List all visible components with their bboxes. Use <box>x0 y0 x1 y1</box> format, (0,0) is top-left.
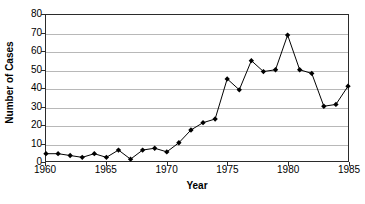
data-point-marker <box>285 32 290 37</box>
y-tick-mark <box>41 107 45 108</box>
data-point-marker <box>345 84 350 89</box>
x-axis-tick-labels: 196019651970197519801985 <box>45 164 349 178</box>
data-point-marker <box>200 120 205 125</box>
data-point-marker <box>273 67 278 72</box>
y-tick-mark <box>41 125 45 126</box>
data-point-marker <box>55 151 60 156</box>
data-point-marker <box>80 155 85 160</box>
y-tick-label: 30 <box>16 102 42 112</box>
y-tick-mark <box>41 51 45 52</box>
y-tick-mark <box>41 33 45 34</box>
y-axis-title-text: Number of Cases <box>4 41 15 123</box>
x-tick-mark <box>167 162 168 166</box>
x-axis-title: Year <box>45 180 349 191</box>
x-tick-label: 1985 <box>329 164 365 175</box>
y-axis-tick-labels: 01020304050607080 <box>16 14 42 162</box>
x-tick-mark <box>349 162 350 166</box>
y-tick-mark <box>41 14 45 15</box>
x-tick-mark <box>227 162 228 166</box>
data-point-marker <box>104 155 109 160</box>
data-series <box>46 15 348 161</box>
data-point-marker <box>297 67 302 72</box>
data-point-marker <box>321 104 326 109</box>
data-point-marker <box>67 153 72 158</box>
x-tick-mark <box>45 162 46 166</box>
y-tick-mark <box>41 70 45 71</box>
x-tick-mark <box>288 162 289 166</box>
y-tick-label: 40 <box>16 83 42 93</box>
data-point-marker <box>333 102 338 107</box>
data-point-marker <box>43 151 48 156</box>
x-tick-mark <box>106 162 107 166</box>
data-point-marker <box>92 151 97 156</box>
y-tick-mark <box>41 88 45 89</box>
y-tick-label: 70 <box>16 28 42 38</box>
y-tick-mark <box>41 144 45 145</box>
data-point-marker <box>212 116 217 121</box>
y-tick-label: 20 <box>16 120 42 130</box>
y-tick-label: 10 <box>16 139 42 149</box>
series-line <box>46 35 348 159</box>
y-tick-label: 60 <box>16 46 42 56</box>
plot-area <box>45 14 349 162</box>
y-tick-label: 50 <box>16 65 42 75</box>
data-point-marker <box>309 71 314 76</box>
data-point-marker <box>152 146 157 151</box>
y-tick-label: 80 <box>16 9 42 19</box>
